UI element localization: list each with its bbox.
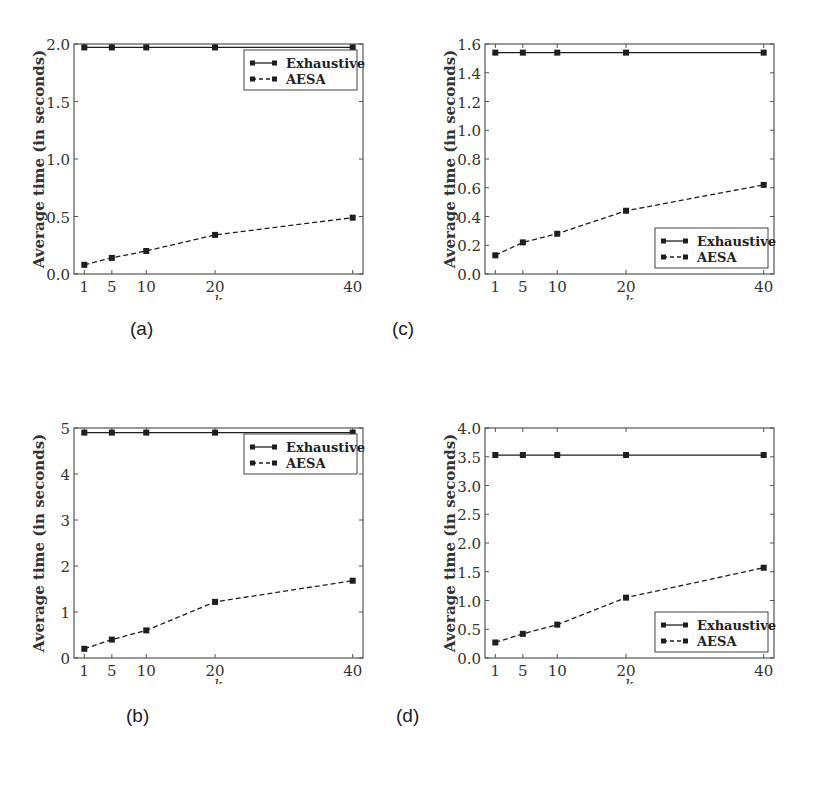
data-point-marker — [492, 452, 498, 458]
data-point-marker — [350, 215, 356, 221]
series-line-aesa — [84, 218, 352, 265]
y-tick-label: 3.5 — [457, 449, 481, 467]
data-point-marker — [212, 599, 218, 605]
y-tick-label: 5 — [60, 420, 70, 438]
y-tick-label: 2.5 — [457, 506, 481, 524]
data-point-marker — [520, 452, 526, 458]
y-tick-label: 2.0 — [457, 535, 481, 553]
legend-label: Exhaustive — [286, 56, 365, 71]
data-point-marker — [81, 262, 87, 268]
series-line-aesa — [84, 581, 352, 649]
data-point-marker — [623, 50, 629, 56]
data-point-marker — [520, 631, 526, 637]
x-tick-label: 40 — [343, 662, 362, 680]
x-tick-label: 40 — [343, 278, 362, 296]
y-tick-label: 0 — [60, 650, 70, 668]
data-point-marker — [623, 208, 629, 214]
data-point-marker — [143, 248, 149, 254]
data-point-marker — [212, 430, 218, 436]
y-tick-label: 4.0 — [457, 420, 481, 438]
y-axis-label: Average time (in seconds) — [441, 434, 459, 653]
chart-b: 01234515102040kAverage time (in seconds)… — [0, 384, 411, 684]
data-point-marker — [109, 637, 115, 643]
legend-label: AESA — [696, 634, 737, 649]
y-tick-label: 0.4 — [457, 209, 481, 227]
y-tick-label: 3 — [60, 512, 70, 530]
x-axis-label: k — [214, 292, 223, 300]
legend-label: Exhaustive — [697, 618, 776, 633]
data-point-marker — [554, 452, 560, 458]
data-point-marker — [520, 50, 526, 56]
data-point-marker — [761, 182, 767, 188]
legend-label: AESA — [285, 72, 326, 87]
subfigure-label-c: (c) — [392, 318, 414, 340]
x-tick-label: 5 — [107, 278, 117, 296]
data-point-marker — [143, 627, 149, 633]
y-axis-label: Average time (in seconds) — [441, 50, 459, 269]
chart-panel-b: 01234515102040kAverage time (in seconds)… — [0, 384, 411, 684]
data-point-marker — [492, 252, 498, 258]
data-point-marker — [554, 50, 560, 56]
y-tick-label: 0.0 — [46, 266, 70, 284]
y-tick-label: 0.5 — [457, 621, 481, 639]
chart-panel-a: 0.00.51.01.52.015102040kAverage time (in… — [0, 0, 411, 300]
data-point-marker — [520, 239, 526, 245]
data-point-marker — [492, 50, 498, 56]
legend-label: Exhaustive — [697, 234, 776, 249]
data-point-marker — [81, 430, 87, 436]
x-tick-label: 10 — [137, 662, 156, 680]
legend-label: AESA — [285, 456, 326, 471]
legend-label: Exhaustive — [286, 440, 365, 455]
y-tick-label: 1.5 — [46, 94, 70, 112]
y-tick-label: 0.8 — [457, 151, 481, 169]
y-tick-label: 0.5 — [46, 209, 70, 227]
subfigure-label-b: (b) — [126, 705, 149, 727]
y-tick-label: 1.0 — [457, 122, 481, 140]
x-tick-label: 40 — [754, 278, 773, 296]
y-tick-label: 1.2 — [457, 94, 481, 112]
data-point-marker — [554, 231, 560, 237]
data-point-marker — [81, 646, 87, 652]
x-tick-label: 1 — [491, 662, 501, 680]
data-point-marker — [143, 430, 149, 436]
data-point-marker — [81, 44, 87, 50]
x-tick-label: 1 — [80, 662, 90, 680]
y-tick-label: 3.0 — [457, 478, 481, 496]
y-tick-label: 0.0 — [457, 650, 481, 668]
data-point-marker — [623, 452, 629, 458]
legend: ExhaustiveAESA — [244, 50, 365, 90]
chart-panel-c: 0.00.20.40.60.81.01.21.41.615102040kAver… — [411, 0, 822, 300]
y-tick-label: 1.6 — [457, 36, 481, 54]
data-point-marker — [623, 595, 629, 601]
x-tick-label: 40 — [754, 662, 773, 680]
y-tick-label: 2.0 — [46, 36, 70, 54]
chart-d: 0.00.51.01.52.02.53.03.54.015102040kAver… — [411, 384, 822, 684]
y-tick-label: 2 — [60, 558, 70, 576]
y-tick-label: 4 — [60, 466, 70, 484]
data-point-marker — [212, 44, 218, 50]
x-tick-label: 5 — [518, 278, 528, 296]
y-tick-label: 0.0 — [457, 266, 481, 284]
chart-c: 0.00.20.40.60.81.01.21.41.615102040kAver… — [411, 0, 822, 300]
data-point-marker — [761, 565, 767, 571]
y-tick-label: 1.4 — [457, 65, 481, 83]
x-tick-label: 10 — [548, 278, 567, 296]
legend-label: AESA — [696, 250, 737, 265]
y-axis-label: Average time (in seconds) — [30, 50, 48, 269]
x-tick-label: 1 — [80, 278, 90, 296]
legend: ExhaustiveAESA — [655, 228, 776, 268]
data-point-marker — [761, 50, 767, 56]
data-point-marker — [109, 430, 115, 436]
y-tick-label: 0.2 — [457, 237, 481, 255]
x-tick-label: 5 — [518, 662, 528, 680]
y-axis-label: Average time (in seconds) — [30, 434, 48, 653]
chart-panel-d: 0.00.51.01.52.02.53.03.54.015102040kAver… — [411, 384, 822, 684]
x-axis-label: k — [214, 676, 223, 684]
subfigure-label-d: (d) — [396, 705, 419, 727]
x-tick-label: 10 — [137, 278, 156, 296]
data-point-marker — [492, 639, 498, 645]
x-tick-label: 5 — [107, 662, 117, 680]
x-tick-label: 1 — [491, 278, 501, 296]
legend: ExhaustiveAESA — [655, 612, 776, 652]
y-tick-label: 1.0 — [46, 151, 70, 169]
